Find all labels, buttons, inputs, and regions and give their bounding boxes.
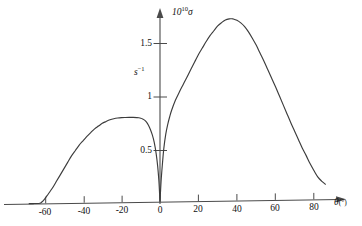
ytick-label: 1.5 — [128, 39, 152, 49]
xtick-label: 0 — [158, 206, 163, 216]
xtick-label: 40 — [232, 205, 242, 215]
xtick-label: 20 — [193, 205, 203, 215]
xtick-label: -60 — [39, 208, 52, 218]
data-curve — [29, 19, 325, 204]
y-axis-title: 1010σ — [172, 6, 193, 18]
x-axis-unit: (°) — [339, 198, 347, 207]
x-axis — [4, 196, 346, 204]
x-axis-title: θ(°) — [334, 198, 347, 208]
xtick-label: -40 — [78, 207, 91, 217]
y-axis — [157, 8, 164, 204]
ytick-label: 0.5 — [128, 146, 152, 156]
xtick-label: 80 — [309, 203, 319, 213]
y-axis-base: 10 — [172, 7, 182, 17]
y-unit-label: s−1 — [134, 66, 145, 78]
xtick-label: 60 — [270, 204, 280, 214]
y-axis-symbol: σ — [188, 7, 193, 17]
plot-canvas — [0, 0, 362, 226]
chart-figure: -60 -40 -20 0 20 40 60 80 0.5 1 1.5 1010… — [0, 0, 362, 226]
y-unit-exponent: −1 — [138, 65, 145, 72]
ytick-label: 1 — [128, 92, 152, 102]
xtick-label: -20 — [116, 206, 129, 216]
